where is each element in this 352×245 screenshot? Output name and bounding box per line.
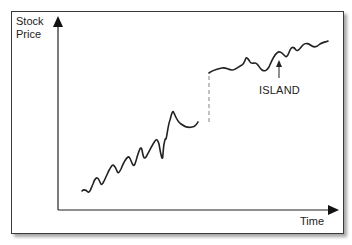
x-axis-label: Time (300, 215, 324, 227)
island-arrow-icon (276, 60, 282, 67)
y-axis-label-line2: Price (16, 28, 44, 41)
price-line-lower (82, 112, 198, 192)
y-axis-arrow-icon (53, 16, 63, 27)
x-axis-arrow-icon (328, 205, 339, 215)
island-annotation: ISLAND (259, 84, 300, 96)
y-axis-label-line1: Stock (16, 15, 44, 28)
y-axis-label: Stock Price (16, 15, 44, 41)
price-line-island (209, 41, 328, 73)
chart-svg (0, 0, 352, 245)
